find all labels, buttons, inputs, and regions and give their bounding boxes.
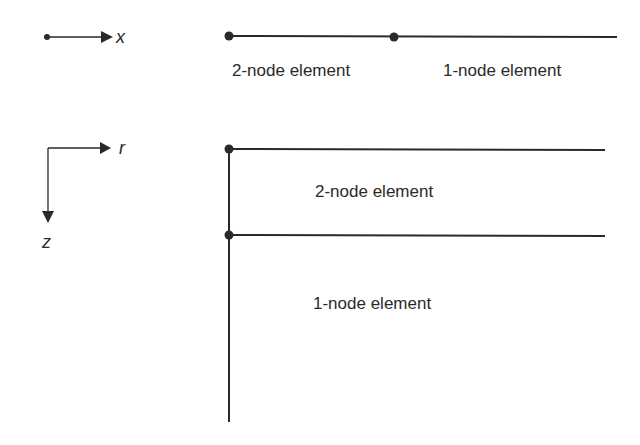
boundary-line-top (229, 149, 605, 150)
element-label-1node-top: 1-node element (443, 62, 561, 79)
arrow-right-icon (101, 31, 113, 43)
mesh-line (229, 36, 617, 37)
z-axis-label: z (42, 233, 51, 251)
node-dot (225, 231, 234, 240)
node-dot (225, 145, 234, 154)
node-dot (390, 33, 399, 42)
r-axis-label: r (119, 139, 125, 157)
element-label-1node-bottom: 1-node element (313, 295, 431, 312)
x-axis-arrow (44, 31, 113, 43)
boundary-line-middle (229, 235, 605, 236)
element-label-2node-top: 2-node element (232, 62, 350, 79)
element-label-2node-bottom: 2-node element (315, 183, 433, 200)
arrow-right-icon (100, 142, 111, 154)
x-axis-label: x (116, 28, 125, 46)
rz-axes (42, 142, 111, 223)
one-dimensional-mesh (225, 32, 618, 42)
node-dot (225, 32, 234, 41)
arrow-down-icon (42, 211, 54, 223)
